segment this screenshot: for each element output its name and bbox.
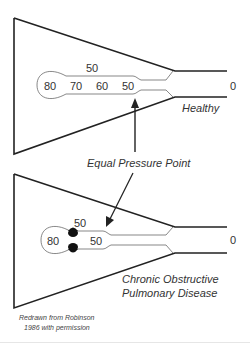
copd-airway-pressure: 50 bbox=[90, 235, 102, 247]
copd-label-line1: Chronic Obstructive bbox=[122, 273, 219, 285]
healthy-diagram: 80 70 60 50 50 0 Healthy bbox=[14, 18, 236, 154]
copd-obstruction-top-fill bbox=[68, 229, 78, 237]
credit-line2: 1986 with permission bbox=[24, 324, 90, 332]
healthy-airway-pressure-60: 60 bbox=[96, 80, 108, 92]
equal-pressure-point-diagram: 80 70 60 50 50 0 Healthy Equal Pressure … bbox=[0, 0, 250, 345]
equal-pressure-point-annotation: Equal Pressure Point bbox=[87, 98, 191, 227]
arrow-diag-icon bbox=[106, 216, 114, 227]
copd-obstruction-bottom-fill bbox=[68, 243, 78, 251]
healthy-alveolar-pressure: 80 bbox=[44, 80, 56, 92]
credit: Redrawn from Robinson 1986 with permissi… bbox=[19, 314, 95, 332]
copd-pleural-pressure: 50 bbox=[74, 217, 86, 229]
copd-alveolus-airway bbox=[41, 226, 173, 253]
healthy-mouth-pressure: 0 bbox=[230, 80, 236, 92]
arrow-up-icon bbox=[131, 98, 139, 108]
credit-line1: Redrawn from Robinson bbox=[19, 314, 95, 321]
copd-mouth-pressure: 0 bbox=[230, 234, 236, 246]
healthy-airway-pressure-70: 70 bbox=[70, 80, 82, 92]
healthy-airway-pressure-50: 50 bbox=[122, 80, 134, 92]
bottom-divider bbox=[0, 342, 250, 343]
copd-label-line2: Pulmonary Disease bbox=[122, 287, 217, 299]
copd-diagram: 80 50 50 0 Chronic Obstructive Pulmonary… bbox=[14, 174, 236, 308]
healthy-pleural-pressure: 50 bbox=[86, 62, 98, 74]
copd-alveolar-pressure: 80 bbox=[47, 235, 59, 247]
equal-pressure-point-label: Equal Pressure Point bbox=[87, 157, 191, 169]
healthy-label: Healthy bbox=[182, 102, 221, 114]
